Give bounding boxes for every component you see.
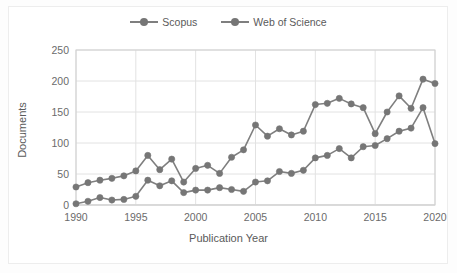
y-tick-label: 150 [51, 106, 69, 118]
data-point-marker [85, 180, 91, 186]
y-axis-tick-labels: 050100150200250 [51, 44, 69, 211]
data-point-marker [276, 126, 282, 132]
x-tick-label: 2015 [363, 211, 387, 223]
data-point-marker [264, 133, 270, 139]
y-tick-label: 200 [51, 75, 69, 87]
data-point-marker [312, 155, 318, 161]
data-point-marker [312, 101, 318, 107]
data-point-marker [205, 162, 211, 168]
data-point-marker [240, 188, 246, 194]
data-point-marker [384, 109, 390, 115]
data-point-marker [372, 131, 378, 137]
data-point-marker [121, 196, 127, 202]
x-axis-title: Publication Year [0, 232, 457, 244]
data-point-marker [181, 179, 187, 185]
data-point-marker [288, 132, 294, 138]
x-tick-label: 2020 [423, 211, 447, 223]
data-point-marker [193, 187, 199, 193]
x-tick-label: 2000 [184, 211, 208, 223]
data-point-marker [157, 183, 163, 189]
data-point-marker [420, 76, 426, 82]
data-point-marker [73, 184, 79, 190]
data-point-marker [109, 175, 115, 181]
data-point-marker [85, 198, 91, 204]
y-tick-label: 0 [63, 199, 69, 211]
data-point-marker [360, 105, 366, 111]
x-tick-label: 2010 [304, 211, 328, 223]
data-point-marker [396, 128, 402, 134]
data-point-marker [73, 201, 79, 207]
x-tick-label: 1995 [124, 211, 148, 223]
data-point-marker [145, 152, 151, 158]
y-tick-label: 250 [51, 44, 69, 56]
data-point-marker [264, 178, 270, 184]
data-point-marker [336, 95, 342, 101]
chart-container: Scopus Web of Science 050100150200250 19… [0, 0, 457, 273]
data-point-marker [169, 156, 175, 162]
data-point-marker [276, 168, 282, 174]
data-point-marker [240, 147, 246, 153]
data-point-marker [372, 142, 378, 148]
data-point-marker [228, 186, 234, 192]
y-axis-title-wrap: Documents [14, 60, 30, 200]
data-point-marker [408, 105, 414, 111]
data-point-marker [300, 128, 306, 134]
data-point-marker [432, 80, 438, 86]
x-tick-label: 2005 [244, 211, 268, 223]
data-point-marker [205, 187, 211, 193]
data-point-marker [193, 165, 199, 171]
data-point-marker [336, 145, 342, 151]
data-point-marker [97, 194, 103, 200]
data-point-marker [181, 190, 187, 196]
data-point-marker [97, 177, 103, 183]
data-point-marker [252, 179, 258, 185]
data-point-marker [252, 122, 258, 128]
data-point-marker [288, 170, 294, 176]
data-point-marker [157, 167, 163, 173]
data-point-marker [396, 93, 402, 99]
x-axis-tick-labels: 1990199520002005201020152020 [64, 211, 447, 223]
y-axis-title: Documents [16, 102, 28, 158]
data-point-marker [217, 170, 223, 176]
y-tick-label: 100 [51, 137, 69, 149]
x-tick-label: 1990 [64, 211, 88, 223]
data-point-marker [384, 136, 390, 142]
data-point-marker [217, 185, 223, 191]
data-point-marker [228, 154, 234, 160]
data-point-marker [133, 193, 139, 199]
data-point-marker [432, 141, 438, 147]
data-point-marker [348, 101, 354, 107]
data-point-marker [360, 144, 366, 150]
data-point-marker [324, 100, 330, 106]
y-tick-label: 50 [57, 168, 69, 180]
data-point-marker [408, 125, 414, 131]
data-point-marker [169, 178, 175, 184]
data-point-marker [324, 152, 330, 158]
data-point-marker [121, 173, 127, 179]
data-point-marker [420, 105, 426, 111]
data-point-marker [109, 197, 115, 203]
data-point-marker [145, 177, 151, 183]
data-point-marker [300, 167, 306, 173]
data-point-marker [348, 155, 354, 161]
data-point-marker [133, 168, 139, 174]
